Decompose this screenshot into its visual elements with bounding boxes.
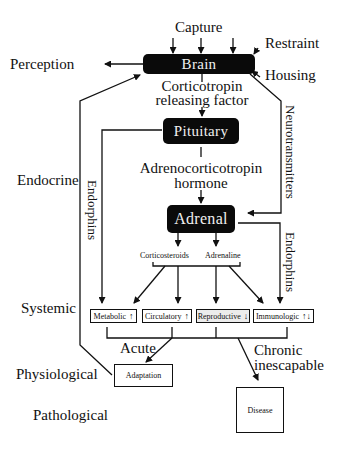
system-label: Reproductive <box>198 312 241 321</box>
crf-label-line2: releasing factor <box>133 93 271 108</box>
perception-label: Perception <box>10 57 74 72</box>
adrenal-node: Adrenal <box>167 205 235 233</box>
system-box-reproductive: Reproductive↓ <box>196 309 250 323</box>
housing-label: Housing <box>265 68 316 83</box>
stress-response-diagram: Capture Restraint Housing Perception Bra… <box>0 0 338 452</box>
up-arrow-icon: ↑ <box>129 311 134 321</box>
endorphins-left-label: Endorphins <box>86 180 99 240</box>
acth-label-line2: hormone <box>131 176 271 191</box>
level-systemic: Systemic <box>21 301 76 316</box>
level-endocrine: Endocrine <box>17 173 79 188</box>
system-box-immunologic: Immunologic↑↓ <box>253 309 314 323</box>
acth-label-line1: Adrenocorticotropin <box>131 161 271 176</box>
brain-node: Brain <box>143 54 255 74</box>
system-label: Immunologic <box>256 312 299 321</box>
disease-box: Disease <box>236 387 284 433</box>
neurotransmitters-label: Neurotransmitters <box>284 105 297 199</box>
system-label: Circulatory <box>145 312 181 321</box>
pituitary-node: Pituitary <box>163 118 239 144</box>
endorphins-right-label: Endorphins <box>284 232 297 292</box>
adaptation-box: Adaptation <box>114 364 173 387</box>
down-arrow-icon: ↓ <box>244 311 249 321</box>
chronic-label-line2: inescapable <box>254 358 324 373</box>
capture-label: Capture <box>175 20 222 35</box>
corticosteroids-label: Corticosteroids <box>140 252 189 260</box>
chronic-label-line1: Chronic <box>254 343 302 358</box>
system-label: Metabolic <box>94 312 126 321</box>
restraint-label: Restraint <box>265 36 319 51</box>
system-box-circulatory: Circulatory↑ <box>142 309 192 323</box>
level-pathological: Pathological <box>33 408 108 423</box>
adrenaline-label: Adrenaline <box>205 252 241 260</box>
up-down-arrow-icon: ↑↓ <box>302 311 311 321</box>
system-box-metabolic: Metabolic↑ <box>90 309 137 323</box>
level-physiological: Physiological <box>16 367 98 382</box>
acute-label: Acute <box>120 341 156 356</box>
up-arrow-icon: ↑ <box>184 311 189 321</box>
